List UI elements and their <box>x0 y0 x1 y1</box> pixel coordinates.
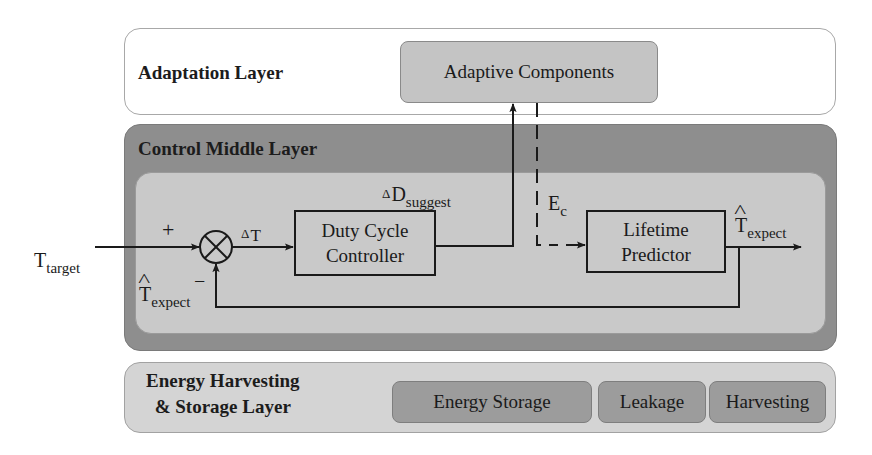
duty-cycle-controller-line1: Duty Cycle <box>321 218 408 243</box>
e-c-label: Ec <box>548 193 567 219</box>
e-c-dashed-line <box>537 103 558 245</box>
summing-junction-icon <box>200 231 232 263</box>
lifetime-predictor-line2: Predictor <box>621 242 691 267</box>
t-target-label: Ttarget <box>34 250 80 276</box>
duty-cycle-controller-line2: Controller <box>326 243 404 268</box>
duty-cycle-controller-block: Duty Cycle Controller <box>294 210 436 276</box>
delta-t-label: ΔT <box>241 227 261 244</box>
plus-sign: + <box>162 219 174 241</box>
lifetime-predictor-block: Lifetime Predictor <box>586 210 726 273</box>
lifetime-predictor-line1: Lifetime <box>623 217 688 242</box>
t-expect-feedback-label: Texpect <box>139 284 190 310</box>
minus-sign: − <box>194 271 205 291</box>
delta-d-suggest-label: ΔDsuggest <box>382 184 451 210</box>
delta-d-suggest-arrow <box>436 104 513 246</box>
t-expect-output-label: Texpect <box>735 215 786 241</box>
